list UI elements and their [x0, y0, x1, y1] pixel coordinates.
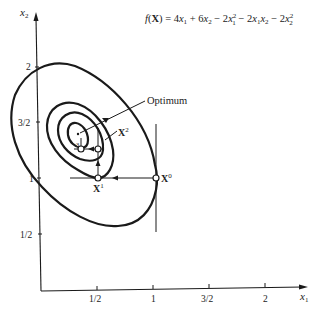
- x-tick-3-2: 3/2: [201, 294, 213, 304]
- contour-lines: [11, 64, 157, 227]
- x-tick-2: 2: [263, 294, 268, 304]
- optimum-arrow-icon: [102, 118, 109, 123]
- optimum-point: [77, 133, 79, 135]
- arrow-icon: [96, 160, 101, 166]
- label-x1: X1: [93, 182, 104, 194]
- label-x2: X2: [118, 126, 129, 138]
- y-axis-label: x2: [19, 6, 29, 20]
- x-axis-label: x1: [299, 290, 309, 304]
- label-x0: X0: [161, 172, 172, 184]
- objective-function: f(X) = 4x1 + 6x2 − 2x21 − 2x1x2 − 2x22: [145, 12, 294, 27]
- optimum-label: Optimum: [147, 95, 187, 106]
- y-tick-3-2: 3/2: [18, 118, 30, 128]
- x-axis: x1 1/2 1 3/2 2: [41, 283, 309, 304]
- x-tick-1: 1: [151, 294, 156, 304]
- contour-outer: [11, 64, 157, 227]
- contour-3: [58, 112, 103, 160]
- arrow-icon: [88, 147, 94, 152]
- arrow-icon: [112, 176, 118, 181]
- optimization-diagram: f(X) = 4x1 + 6x2 − 2x21 − 2x1x2 − 2x22 x…: [0, 0, 317, 309]
- y-tick-2: 2: [26, 62, 31, 72]
- y-axis: x2 2 3/2 1 1/2: [18, 6, 42, 291]
- x-tick-1-2: 1/2: [89, 294, 101, 304]
- y-axis-arrow-icon: [34, 12, 39, 21]
- x-axis-arrow-icon: [299, 285, 308, 290]
- point-x0: [153, 175, 159, 181]
- step-label: 3: [76, 141, 79, 148]
- point-x1: [95, 175, 101, 181]
- point-x2: [95, 146, 101, 152]
- y-tick-1-2: 1/2: [20, 230, 32, 240]
